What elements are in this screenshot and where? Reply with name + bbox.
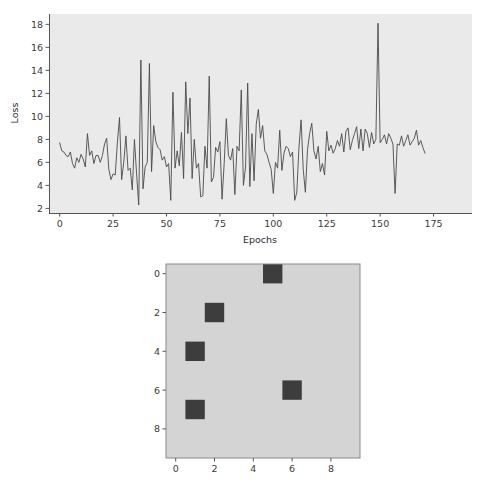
line-y-tick-label: 16 — [31, 42, 43, 53]
heatmap-x-tick-label: 6 — [289, 463, 295, 474]
heatmap-active-cell — [263, 264, 282, 283]
heatmap-y-tick-label: 6 — [154, 385, 160, 396]
heatmap-y-tick-label: 4 — [154, 346, 160, 357]
heatmap-y-tick-label: 0 — [154, 268, 160, 279]
heatmap-x-tick-label: 2 — [211, 463, 217, 474]
figure-canvas: 24681012141618 0255075100125150175 Loss … — [0, 0, 491, 497]
line-x-axis-ticks: 0255075100125150175 — [57, 213, 443, 229]
line-x-tick-label: 125 — [318, 218, 336, 229]
loss-line-chart: 24681012141618 0255075100125150175 Loss … — [0, 0, 491, 250]
heatmap-x-tick-label: 8 — [328, 463, 334, 474]
heatmap-x-axis-ticks: 02468 — [173, 458, 334, 474]
line-x-tick-label: 75 — [214, 218, 226, 229]
line-x-tick-label: 0 — [57, 218, 63, 229]
line-y-tick-label: 2 — [37, 203, 43, 214]
line-y-tick-label: 10 — [31, 111, 43, 122]
heatmap-y-tick-label: 2 — [154, 307, 160, 318]
line-y-tick-label: 8 — [37, 134, 43, 145]
line-y-tick-label: 18 — [31, 19, 43, 30]
line-x-tick-label: 150 — [371, 218, 389, 229]
line-y-tick-label: 4 — [37, 180, 43, 191]
heatmap-active-cell — [185, 400, 204, 419]
line-y-axis-ticks: 24681012141618 — [31, 19, 49, 214]
loss-line-chart-panel: 24681012141618 0255075100125150175 Loss … — [0, 0, 491, 250]
heatmap-y-tick-label: 8 — [154, 423, 160, 434]
heatmap-y-axis-ticks: 02468 — [154, 268, 166, 434]
loss-y-axis-label: Loss — [9, 103, 20, 124]
line-x-tick-label: 25 — [107, 218, 119, 229]
heatmap-x-tick-label: 0 — [173, 463, 179, 474]
heatmap-active-cell — [205, 303, 224, 322]
loss-x-axis-label: Epochs — [243, 234, 277, 245]
heatmap-active-cell — [185, 342, 204, 361]
heatmap-active-cell — [282, 380, 301, 399]
line-y-tick-label: 12 — [31, 88, 43, 99]
line-x-tick-label: 175 — [424, 218, 442, 229]
line-x-tick-label: 50 — [160, 218, 172, 229]
line-x-tick-label: 100 — [264, 218, 282, 229]
matrix-heatmap: 02468 02468 — [0, 250, 491, 497]
line-y-tick-label: 6 — [37, 157, 43, 168]
line-y-tick-label: 14 — [31, 65, 43, 76]
heatmap-x-tick-label: 4 — [250, 463, 256, 474]
matrix-heatmap-panel: 02468 02468 — [0, 250, 491, 497]
line-plot-background — [49, 14, 472, 213]
